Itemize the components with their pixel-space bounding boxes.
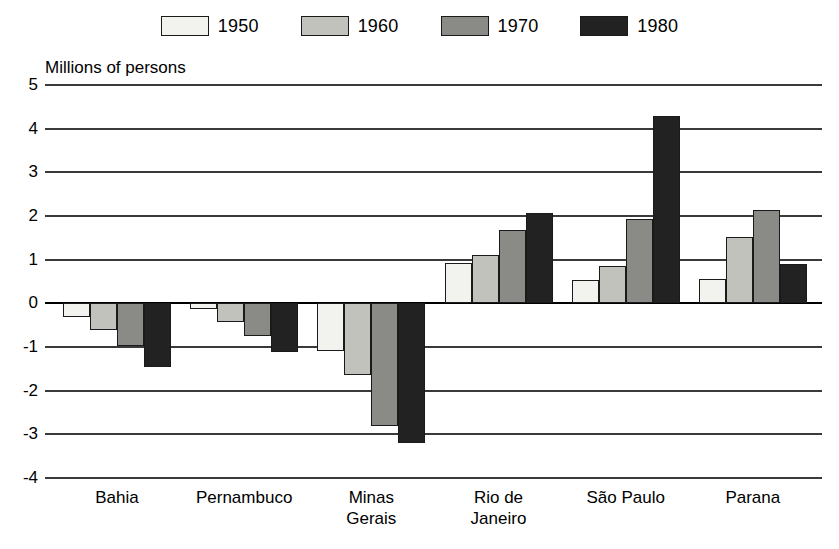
bar <box>317 303 344 351</box>
bar-series-container <box>0 0 839 549</box>
bar <box>90 303 117 330</box>
bar <box>753 210 780 303</box>
bar-chart: Millions of persons 543210-1-2-3-4 Bahia… <box>0 0 839 549</box>
x-axis-label: Parana <box>683 487 823 508</box>
bar <box>344 303 371 375</box>
bar <box>653 116 680 304</box>
bar <box>445 263 472 303</box>
x-axis-label: Rio de Janeiro <box>429 487 569 529</box>
bar <box>726 237 753 304</box>
bar <box>271 303 298 352</box>
bar <box>499 230 526 303</box>
bar <box>699 279 726 303</box>
bar <box>190 303 217 308</box>
x-axis-label: São Paulo <box>556 487 696 508</box>
bar <box>371 303 398 425</box>
bar <box>63 303 90 317</box>
bar <box>217 303 244 321</box>
bar <box>472 255 499 303</box>
bar <box>144 303 171 366</box>
bar <box>599 266 626 303</box>
bar <box>398 303 425 443</box>
x-axis-label: Minas Gerais <box>301 487 441 529</box>
bar <box>572 280 599 303</box>
bar <box>117 303 144 346</box>
bar <box>780 264 807 303</box>
bar <box>244 303 271 336</box>
bar <box>626 219 653 303</box>
x-axis-label: Bahia <box>47 487 187 508</box>
x-axis-label: Pernambuco <box>174 487 314 508</box>
bar <box>526 213 553 304</box>
